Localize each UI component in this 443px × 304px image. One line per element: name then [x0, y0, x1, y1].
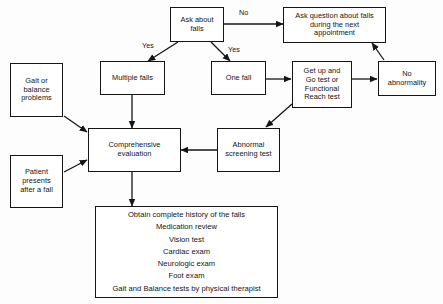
node-workup-list[interactable]: Obtain complete history of the falls Med…: [95, 206, 278, 298]
node-get-up-and-go-test-label: Get up and Go test or Functional Reach t…: [295, 67, 349, 102]
node-one-fall[interactable]: One fall: [211, 61, 266, 95]
node-ask-question-next-appointment[interactable]: Ask question about falls during the next…: [283, 7, 386, 43]
node-multiple-falls[interactable]: Multiple falls: [100, 61, 165, 95]
edge-label-no: No: [239, 8, 248, 17]
node-comprehensive-evaluation[interactable]: Comprehensive evaluation: [88, 128, 181, 172]
node-abnormal-screening-test-label: Abnormal screening test: [220, 141, 277, 158]
node-no-abnormality-label: No abnormality: [381, 70, 433, 87]
edge-label-yes-right: Yes: [228, 45, 240, 54]
node-comprehensive-evaluation-label: Comprehensive evaluation: [91, 141, 178, 158]
node-ask-about-falls-label: Ask about falls: [173, 16, 221, 33]
node-ask-about-falls[interactable]: Ask about falls: [170, 7, 224, 42]
node-ask-question-next-appointment-label: Ask question about falls during the next…: [286, 12, 383, 38]
node-no-abnormality[interactable]: No abnormality: [378, 61, 436, 96]
node-gait-or-balance-problems-label: Gait or balance problems: [13, 77, 60, 103]
edge-label-yes-left: Yes: [142, 41, 154, 50]
edge-gait-to-evaluation: [64, 116, 87, 132]
node-patient-presents-after-fall-label: Patient presents after a fall: [13, 168, 60, 194]
node-get-up-and-go-test[interactable]: Get up and Go test or Functional Reach t…: [292, 61, 352, 108]
node-multiple-falls-label: Multiple falls: [103, 74, 162, 83]
edge-patient-to-evaluation: [64, 160, 87, 172]
node-abnormal-screening-test[interactable]: Abnormal screening test: [217, 128, 280, 172]
node-gait-or-balance-problems[interactable]: Gait or balance problems: [10, 63, 63, 117]
node-workup-list-label: Obtain complete history of the falls Med…: [98, 209, 275, 295]
edge-getup-to-abnormal: [266, 104, 292, 127]
flowchart-canvas: Ask about falls Ask question about falls…: [0, 0, 443, 304]
node-one-fall-label: One fall: [214, 74, 263, 83]
node-patient-presents-after-fall[interactable]: Patient presents after a fall: [10, 155, 63, 208]
edge-no-abnormality-to-next-appointment: [372, 43, 384, 60]
